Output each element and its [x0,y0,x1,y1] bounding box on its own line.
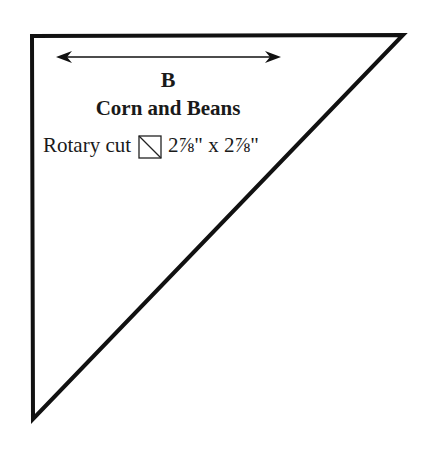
cut-instructions: Rotary cut 2⅞" x 2⅞" [43,133,259,158]
cut-dimensions: 2⅞" x 2⅞" [168,133,259,158]
grainline-arrow [56,51,281,63]
cut-method: Rotary cut [43,133,131,158]
half-square-triangle-icon [138,135,162,159]
piece-letter: B [0,67,336,93]
piece-name: Corn and Beans [0,96,336,121]
